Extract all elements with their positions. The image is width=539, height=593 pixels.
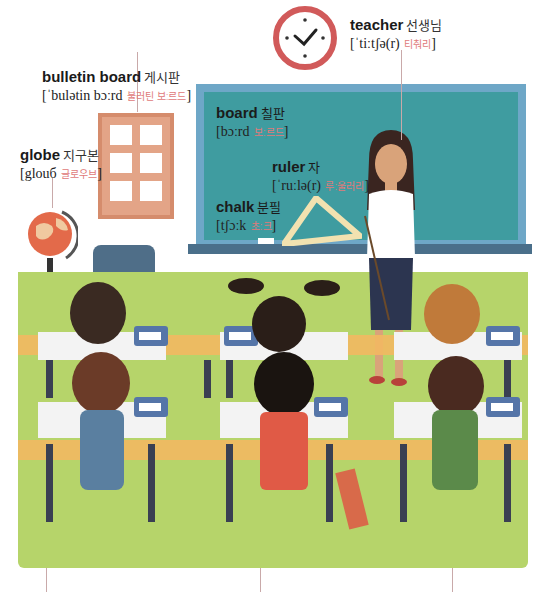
student-head — [428, 356, 484, 416]
label-ruler: ruler자 [ˈruːlə(r) 루ː울러리] — [272, 158, 369, 195]
word-ko: 게시판 — [144, 70, 180, 85]
book — [314, 397, 348, 417]
label-bulletin-board: bulletin board게시판 [ˈbulətin bɔːrd 불러틴 보ː… — [42, 68, 191, 105]
student-head — [70, 282, 126, 344]
word-ko: 지구본 — [63, 148, 99, 163]
label-globe: globe지구본 [glouб 글로우브] — [20, 146, 102, 183]
bulletin-note — [140, 125, 162, 145]
pronunciation-ko: 글로우브 — [61, 169, 97, 180]
leader-line — [260, 568, 261, 592]
chalk-piece — [258, 238, 274, 244]
pronunciation-ko: 티춰리 — [404, 39, 431, 50]
bulletin-board — [98, 113, 174, 219]
bracket: ] — [431, 36, 436, 51]
desk-leg — [204, 360, 211, 398]
word-ko: 자 — [308, 160, 320, 175]
desk-leg — [46, 444, 53, 522]
label-chalk: chalk분필 [tʃɔːk 초ː크] — [216, 198, 281, 235]
pronunciation: [glouб — [20, 166, 57, 181]
backpack — [80, 410, 124, 490]
bracket: ] — [187, 88, 192, 103]
pronunciation: [ˈbulətin bɔːrd — [42, 88, 122, 103]
pronunciation: [ˈruːlə(r) — [272, 178, 321, 193]
desk-leg — [46, 360, 53, 398]
label-teacher: teacher선생님 [ˈtiːtʃə(r) 티춰리] — [350, 16, 442, 53]
clock-face-icon — [279, 12, 331, 64]
triangle-ruler-icon — [282, 196, 362, 246]
bracket: ] — [97, 166, 102, 181]
word-en: globe — [20, 146, 60, 163]
bracket: ] — [364, 178, 369, 193]
word-ko: 칠판 — [261, 106, 285, 121]
bulletin-note — [110, 181, 132, 201]
desk-leg — [326, 444, 333, 522]
word-en: board — [216, 104, 258, 121]
book — [486, 397, 520, 417]
bracket: ] — [272, 218, 277, 233]
label-board: board칠판 [bɔːrd 보ː르드] — [216, 104, 288, 141]
leader-line — [401, 50, 402, 140]
pronunciation: [tʃɔːk — [216, 218, 246, 233]
bulletin-note — [140, 181, 162, 201]
desk-leg — [400, 444, 407, 522]
word-en: teacher — [350, 16, 403, 33]
desk-leg — [226, 444, 233, 522]
pronunciation-ko: 루ː울러리 — [325, 181, 364, 192]
bulletin-note — [140, 153, 162, 173]
word-ko: 선생님 — [406, 18, 442, 33]
word-en: bulletin board — [42, 68, 141, 85]
word-ko: 분필 — [257, 200, 281, 215]
book — [486, 326, 520, 346]
pronunciation: [bɔːrd — [216, 124, 249, 139]
student-head — [252, 296, 306, 352]
desk-leg — [226, 360, 233, 398]
pronunciation-ko: 보ː르드 — [254, 127, 284, 138]
student-shirt — [260, 412, 308, 490]
bracket: ] — [284, 124, 289, 139]
student-head — [424, 284, 480, 344]
ponytail — [304, 280, 340, 296]
desk-leg — [148, 444, 155, 522]
desk-leg — [504, 360, 511, 398]
book — [134, 397, 168, 417]
leader-line — [452, 568, 453, 592]
desk-leg — [504, 444, 511, 522]
leader-line — [46, 568, 47, 592]
backpack — [432, 410, 478, 490]
ponytail — [228, 278, 264, 294]
book — [134, 326, 168, 346]
clock — [273, 6, 337, 70]
pronunciation: [ˈtiːtʃə(r) — [350, 36, 400, 51]
word-en: ruler — [272, 158, 305, 175]
student-head — [72, 352, 130, 414]
pronunciation-ko: 불러틴 보ː르드 — [127, 91, 187, 102]
word-en: chalk — [216, 198, 254, 215]
bulletin-note — [110, 153, 132, 173]
student-head — [254, 352, 314, 416]
pronunciation-ko: 초ː크 — [251, 221, 272, 232]
bulletin-note — [110, 125, 132, 145]
